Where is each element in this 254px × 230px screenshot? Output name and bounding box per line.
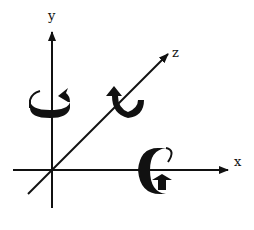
- x-axis-label: x: [234, 154, 242, 169]
- y-axis-label: y: [47, 8, 56, 23]
- axes-diagram: y z x: [0, 0, 254, 230]
- z-axis-label: z: [172, 45, 179, 60]
- y-rotation-arrow-icon: [30, 88, 70, 118]
- z-rotation-arrow-icon: [106, 86, 144, 118]
